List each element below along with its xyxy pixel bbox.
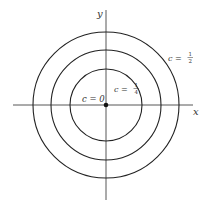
label-c-quarter-numerator: 1 (135, 82, 139, 88)
level-curves-diagram: y x c = 0 c = 1 4 c = 1 2 (0, 0, 210, 205)
label-c-half-prefix: c = (168, 54, 182, 63)
label-c-half-numerator: 1 (189, 51, 193, 57)
label-c-half: c = 1 2 (168, 51, 193, 64)
y-axis-label: y (96, 8, 103, 19)
x-axis-label: x (193, 106, 199, 117)
label-c-quarter-prefix: c = (114, 85, 128, 94)
label-c-quarter: c = 1 4 (114, 82, 139, 95)
label-c-zero: c = 0 (82, 94, 105, 104)
label-c-half-denominator: 2 (189, 58, 193, 64)
label-c-quarter-denominator: 4 (135, 89, 139, 95)
